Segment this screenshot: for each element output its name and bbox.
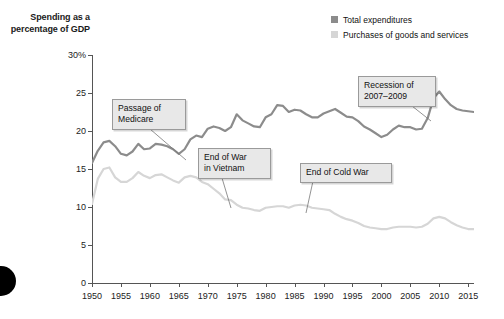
x-tick-mark bbox=[92, 283, 93, 287]
y-tick-label: 25 bbox=[76, 88, 86, 98]
legend-swatch-icon bbox=[331, 31, 338, 38]
x-tick-label: 1970 bbox=[198, 291, 218, 301]
x-tick-label: 1985 bbox=[285, 291, 305, 301]
x-tick-mark bbox=[295, 283, 296, 287]
y-axis-title: Spending as a percentage of GDP bbox=[4, 12, 90, 35]
legend-swatch-icon bbox=[331, 16, 338, 23]
x-tick-mark bbox=[352, 283, 353, 287]
legend-item-1: Purchases of goods and services bbox=[331, 28, 468, 41]
legend-label: Purchases of goods and services bbox=[343, 30, 468, 40]
x-tick-label: 2015 bbox=[458, 291, 478, 301]
x-tick-mark bbox=[237, 283, 238, 287]
y-tick-label: 20 bbox=[76, 126, 86, 136]
x-tick-label: 2000 bbox=[371, 291, 391, 301]
page-corner-artifact bbox=[0, 266, 16, 296]
y-tick-label: 10 bbox=[76, 202, 86, 212]
x-tick-label: 1980 bbox=[256, 291, 276, 301]
x-tick-mark bbox=[381, 283, 382, 287]
callout-end-of-cold-war: End of Cold War bbox=[300, 163, 392, 183]
x-tick-label: 1960 bbox=[140, 291, 160, 301]
callout-passage-of-medicare: Passage of Medicare bbox=[112, 99, 186, 130]
callout-recession-of-2007-2009: Recession of 2007–2009 bbox=[358, 76, 436, 107]
x-tick-mark bbox=[121, 283, 122, 287]
y-tick-label: 15 bbox=[76, 164, 86, 174]
spending-gdp-chart: Spending as a percentage of GDP Total ex… bbox=[0, 0, 504, 319]
x-tick-label: 1965 bbox=[169, 291, 189, 301]
x-tick-label: 1975 bbox=[227, 291, 247, 301]
x-tick-label: 1950 bbox=[82, 291, 102, 301]
x-tick-mark bbox=[150, 283, 151, 287]
y-tick-label: 30% bbox=[68, 50, 86, 60]
callout-end-of-war-in-vietnam: End of War in Vietnam bbox=[198, 148, 271, 179]
x-tick-mark bbox=[324, 283, 325, 287]
x-tick-mark bbox=[439, 283, 440, 287]
y-tick-label: 0 bbox=[81, 278, 86, 288]
x-tick-mark bbox=[468, 283, 469, 287]
legend-item-0: Total expenditures bbox=[331, 13, 468, 26]
x-tick-label: 2010 bbox=[429, 291, 449, 301]
x-tick-label: 1995 bbox=[342, 291, 362, 301]
x-tick-mark bbox=[179, 283, 180, 287]
x-tick-mark bbox=[266, 283, 267, 287]
y-tick-label: 5 bbox=[81, 240, 86, 250]
x-tick-mark bbox=[208, 283, 209, 287]
x-tick-label: 1955 bbox=[111, 291, 131, 301]
x-tick-label: 1990 bbox=[313, 291, 333, 301]
chart-legend: Total expendituresPurchases of goods and… bbox=[331, 13, 468, 43]
series-line-purchases-of-goods-and-services bbox=[92, 167, 474, 229]
legend-label: Total expenditures bbox=[343, 15, 412, 25]
x-tick-mark bbox=[410, 283, 411, 287]
x-tick-label: 2005 bbox=[400, 291, 420, 301]
